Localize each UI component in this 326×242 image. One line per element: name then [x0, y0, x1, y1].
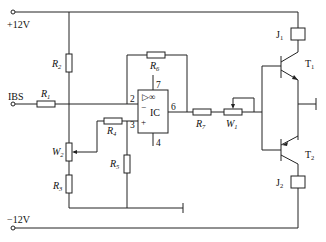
label-j2: J2	[276, 177, 283, 189]
resistor-r4	[104, 118, 122, 124]
label-positive-supply: +12V	[7, 19, 31, 30]
potentiometer-w1	[224, 109, 242, 115]
circuit-diagram: +12V −12V R2 W2 R3 IBS R1 R6 7 4 2 3 6 ▷…	[0, 0, 326, 242]
label-r7: R7	[195, 118, 206, 130]
positive-rail	[11, 10, 298, 28]
pin-7: 7	[156, 80, 161, 90]
label-t2: T2	[305, 149, 314, 161]
resistor-r2	[66, 54, 72, 72]
transistor-t1	[281, 52, 298, 80]
label-r5: R5	[109, 158, 120, 170]
resistor-r3	[66, 175, 72, 193]
schematic-canvas: +12V −12V R2 W2 R3 IBS R1 R6 7 4 2 3 6 ▷…	[0, 0, 326, 242]
transistor-t2	[281, 136, 298, 164]
label-r1: R1	[40, 88, 50, 100]
label-w2: W2	[52, 146, 64, 158]
opamp-symbol: ▷∞	[142, 92, 155, 102]
pin-4: 4	[156, 138, 161, 148]
plus-sign: +	[141, 117, 146, 127]
label-t1: T1	[305, 58, 314, 70]
terminal-negative	[11, 226, 15, 230]
wiper-arrow-w1-icon	[231, 104, 235, 109]
minus-sign: −	[141, 102, 146, 112]
label-w1: W1	[226, 118, 238, 130]
terminal-ibs	[11, 102, 15, 106]
label-r3: R3	[52, 180, 63, 192]
resistor-r6	[147, 52, 165, 58]
label-r4: R4	[106, 125, 117, 137]
label-negative-supply: −12V	[7, 214, 31, 225]
label-r2: R2	[51, 58, 62, 70]
resistor-r7	[193, 109, 211, 115]
label-ibs: IBS	[8, 91, 24, 102]
potentiometer-w2	[66, 143, 72, 161]
negative-rail	[11, 188, 298, 230]
pin-6: 6	[171, 102, 176, 112]
resistor-r5	[124, 155, 130, 173]
label-j1: J1	[276, 29, 283, 41]
label-r6: R6	[149, 60, 160, 72]
pin-2: 2	[130, 94, 135, 104]
relay-j1	[291, 28, 305, 40]
terminal-positive	[11, 10, 15, 14]
opamp-label: IC	[150, 107, 160, 118]
relay-j2	[291, 176, 305, 188]
resistor-r1	[37, 101, 55, 107]
wiper-arrow-w2-icon	[72, 150, 77, 154]
